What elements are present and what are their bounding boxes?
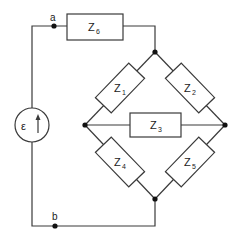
z2-label: Z (184, 82, 191, 94)
z4-label: Z (114, 156, 121, 168)
z4-sub: 4 (122, 163, 126, 170)
impedance-z6: Z 6 (67, 14, 123, 40)
voltage-source: ε (15, 108, 49, 142)
z3-sub: 3 (158, 126, 162, 133)
node-a-label: a (50, 12, 56, 23)
wires (32, 26, 225, 226)
impedance-z1: Z 1 (95, 63, 144, 113)
impedance-z5: Z 5 (165, 137, 214, 187)
node-a (51, 23, 56, 28)
circuit-diagram: ε Z 6 Z 1 Z 2 Z 3 Z 4 (0, 0, 245, 237)
node-top (152, 49, 157, 54)
impedance-z3: Z 3 (130, 113, 181, 137)
z6-label: Z (88, 21, 95, 33)
node-left (82, 122, 87, 127)
z3-label: Z (150, 119, 157, 131)
impedance-z4: Z 4 (95, 137, 144, 187)
node-bottom (152, 196, 157, 201)
node-b (52, 223, 57, 228)
z2-sub: 2 (192, 89, 196, 96)
z6-sub: 6 (96, 28, 100, 35)
source-label: ε (21, 120, 26, 132)
impedance-z2: Z 2 (165, 63, 214, 113)
z1-sub: 1 (122, 89, 126, 96)
node-b-label: b (52, 211, 58, 222)
z5-label: Z (184, 156, 191, 168)
z5-sub: 5 (192, 163, 196, 170)
node-right (222, 122, 227, 127)
z1-label: Z (114, 82, 121, 94)
